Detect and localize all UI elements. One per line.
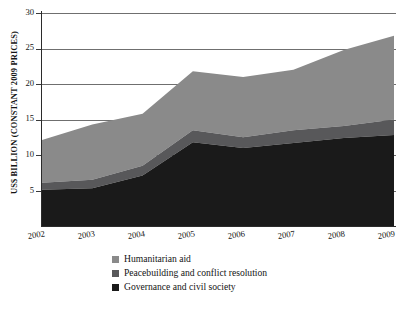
legend-item-peacebuilding-and-conflict-resolution: Peacebuilding and conflict resolution xyxy=(112,266,402,280)
y-tick-5: 5 xyxy=(0,186,34,196)
legend-label: Peacebuilding and conflict resolution xyxy=(124,268,267,278)
legend-item-governance-and-civil-society: Governance and civil society xyxy=(112,280,402,294)
y-tick-30: 30 xyxy=(0,8,34,18)
legend-swatch-icon xyxy=(112,270,119,277)
legend-swatch-icon xyxy=(112,284,119,291)
y-tick-20: 20 xyxy=(0,79,34,89)
legend-label: Governance and civil society xyxy=(124,282,236,292)
x-tick-label-2005: 2005 xyxy=(177,228,196,241)
x-tick-label-2007: 2007 xyxy=(277,228,296,241)
stacked-area-chart-figure: US$ BILLION (CONSTANT 2009 PRICES) 30 25… xyxy=(0,0,413,310)
x-tick-label-2004: 2004 xyxy=(127,228,146,241)
plot-area xyxy=(42,13,394,226)
x-tick-label-2003: 2003 xyxy=(77,228,96,241)
y-tick-25: 25 xyxy=(0,43,34,53)
legend-label: Humanitarian aid xyxy=(124,254,191,264)
x-tick-label-2006: 2006 xyxy=(227,228,246,241)
y-axis-line xyxy=(41,11,42,227)
chart-legend: Humanitarian aid Peacebuilding and confl… xyxy=(112,252,402,294)
stacked-area-svg xyxy=(42,13,394,226)
x-tick-label-2009: 2009 xyxy=(377,228,396,241)
x-axis-line xyxy=(41,226,396,227)
x-tick-label-2002: 2002 xyxy=(27,228,46,241)
y-tick-label: 10 xyxy=(10,150,34,159)
y-tick-15: 15 xyxy=(0,114,34,124)
y-tick-10: 10 xyxy=(0,150,34,160)
y-tick-label: 15 xyxy=(10,114,34,123)
legend-swatch-icon xyxy=(112,256,119,263)
legend-item-humanitarian-aid: Humanitarian aid xyxy=(112,252,402,266)
y-tick-label: 20 xyxy=(10,79,34,88)
x-tick-label-2008: 2008 xyxy=(327,228,346,241)
y-tick-label: 30 xyxy=(10,8,34,17)
y-tick-label: 5 xyxy=(10,186,34,195)
y-tick-label: 25 xyxy=(10,43,34,52)
